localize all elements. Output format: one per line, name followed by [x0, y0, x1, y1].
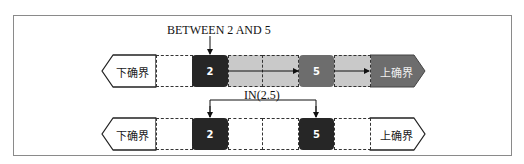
row1-lower-bound-label: 下确界	[116, 64, 149, 80]
row2-lower-bound-label: 下确界	[116, 127, 149, 143]
in-annotation: IN(2.5)	[244, 88, 280, 103]
between-annotation: BETWEEN 2 AND 5	[167, 23, 271, 38]
row1-upper-bound-label: 上确界	[380, 64, 413, 80]
row2-upper-bound-label: 上确界	[380, 127, 413, 143]
